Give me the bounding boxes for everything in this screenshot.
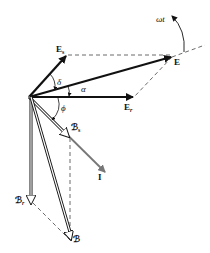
construction-lines bbox=[33, 45, 205, 242]
label-alpha: α bbox=[81, 84, 86, 94]
label-b: ℬ bbox=[73, 234, 80, 244]
label-er: Er bbox=[124, 102, 133, 113]
label-br: ℬr bbox=[15, 195, 25, 206]
phasor-e bbox=[29, 57, 171, 97]
label-bs: ℬs bbox=[71, 122, 81, 133]
phasor-diagram: Es E Er ωt δ α ϕ ℬs I ℬr ℬ bbox=[0, 0, 210, 253]
label-phi: ϕ bbox=[61, 103, 66, 113]
label-es: Es bbox=[56, 44, 65, 55]
angle-arc-phi bbox=[52, 98, 59, 120]
label-omega-t: ωt bbox=[156, 14, 165, 24]
dashed-e-extension bbox=[172, 45, 205, 57]
label-i: I bbox=[98, 172, 102, 182]
rotation-arc-omega-t bbox=[172, 16, 184, 52]
angle-arc-alpha bbox=[68, 86, 69, 96]
label-e: E bbox=[174, 57, 180, 67]
angle-arc-delta bbox=[50, 74, 55, 90]
label-delta: δ bbox=[57, 77, 62, 87]
